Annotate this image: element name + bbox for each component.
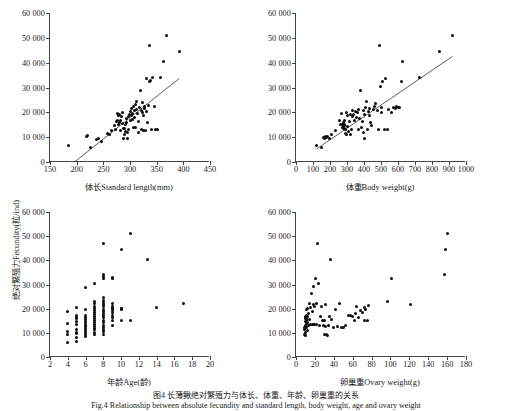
panel-ovary-weight-ytick bbox=[292, 236, 296, 237]
panel-ovary-weight-data-point bbox=[338, 302, 341, 305]
panel-ovary-weight-data-point bbox=[327, 324, 330, 327]
panel-ovary-weight-data-point bbox=[409, 303, 412, 306]
panel-ovary-weight-data-point bbox=[304, 334, 307, 337]
panel-ovary-weight-data-point bbox=[307, 312, 310, 315]
panel-ovary-weight-data-point bbox=[355, 305, 358, 308]
panel-ovary-weight-data-point bbox=[324, 303, 327, 306]
panel-ovary-weight-data-point bbox=[330, 318, 333, 321]
panel-ovary-weight-data-point bbox=[312, 285, 315, 288]
panel-ovary-weight-data-point bbox=[332, 326, 335, 329]
panel-ovary-weight-data-point bbox=[306, 329, 309, 332]
panel-ovary-weight-xtick-label: 60 bbox=[349, 360, 357, 369]
panel-ovary-weight-ytick bbox=[292, 212, 296, 213]
panel-ovary-weight-ytick-label: 10 000 bbox=[268, 328, 291, 337]
panel-ovary-weight-data-point bbox=[319, 315, 322, 318]
panel-ovary-weight-xtick-label: 180 bbox=[460, 360, 472, 369]
panel-ovary-weight-data-point bbox=[354, 312, 357, 315]
panel-ovary-weight-xtick-label: 160 bbox=[441, 360, 453, 369]
panel-ovary-weight-data-point bbox=[313, 305, 316, 308]
panel-ovary-weight-data-point bbox=[361, 311, 364, 314]
panel-ovary-weight-data-point bbox=[316, 242, 319, 245]
panel-ovary-weight-ytick bbox=[292, 333, 296, 334]
panel-ovary-weight-data-point bbox=[308, 302, 311, 305]
panel-ovary-weight-ytick-label: 60 000 bbox=[268, 208, 291, 217]
panel-ovary-weight-data-point bbox=[310, 292, 313, 295]
panel-ovary-weight-ytick bbox=[292, 309, 296, 310]
panel-ovary-weight-xtick-label: 40 bbox=[330, 360, 338, 369]
panel-ovary-weight-data-point bbox=[386, 300, 389, 303]
panel-ovary-weight-data-point bbox=[367, 304, 370, 307]
panel-ovary-weight-data-point bbox=[311, 310, 314, 313]
panel-ovary-weight-data-point bbox=[366, 319, 369, 322]
panel-ovary-weight-ytick-label: 40 000 bbox=[268, 256, 291, 265]
panel-ovary-weight-data-point bbox=[443, 273, 446, 276]
panel-ovary-weight-data-point bbox=[363, 319, 366, 322]
panel-ovary-weight-data-point bbox=[318, 324, 321, 327]
panel-ovary-weight-data-point bbox=[390, 277, 393, 280]
panel-ovary-weight-data-point bbox=[336, 325, 339, 328]
panel-ovary-weight-data-point bbox=[446, 232, 449, 235]
panel-ovary-weight-data-point bbox=[317, 282, 320, 285]
panel-ovary-weight-data-point bbox=[353, 319, 356, 322]
panel-ovary-weight-xtick-label: 140 bbox=[422, 360, 434, 369]
panel-ovary-weight-data-point bbox=[309, 306, 312, 309]
panel-ovary-weight-data-point bbox=[308, 318, 311, 321]
panel-ovary-weight-ytick bbox=[292, 285, 296, 286]
panel-ovary-weight-xtick-label: 0 bbox=[294, 360, 298, 369]
panel-ovary-weight-xtick-label: 120 bbox=[403, 360, 415, 369]
panel-ovary-weight-data-point bbox=[323, 319, 326, 322]
panel-ovary-weight-data-point bbox=[320, 305, 323, 308]
panel-ovary-weight-x-axis-title: 卵巢重Ovary weight(g) bbox=[340, 375, 420, 387]
panel-ovary-weight-data-point bbox=[357, 316, 360, 319]
panel-ovary-weight-data-point bbox=[344, 324, 347, 327]
panel-ovary-weight-data-point bbox=[326, 334, 329, 337]
figure-caption-en: Fig.4 Relationship between absolute fecu… bbox=[0, 401, 512, 411]
panel-ovary-weight-data-point bbox=[334, 308, 337, 311]
figure-caption-cn: 图4 长薄鳅绝对繁殖力与体长、体重、年龄、卵巢重的关系 bbox=[0, 391, 512, 401]
panel-ovary-weight-ytick-label: 0 bbox=[287, 353, 291, 362]
panel-ovary-weight-xtick-label: 80 bbox=[367, 360, 375, 369]
panel-ovary-weight-data-point bbox=[444, 248, 447, 251]
panel-ovary-weight-ytick bbox=[292, 260, 296, 261]
panel-ovary-weight-ytick-label: 30 000 bbox=[268, 280, 291, 289]
panel-ovary-weight-data-point bbox=[314, 277, 317, 280]
panel-ovary-weight-data-point bbox=[329, 258, 332, 261]
panel-ovary-weight-plot-area: 010 00020 00030 00040 00050 00060 000020… bbox=[295, 212, 465, 357]
panel-ovary-weight-xtick-label: 100 bbox=[384, 360, 396, 369]
panel-ovary-weight-data-point bbox=[315, 302, 318, 305]
panel-ovary-weight-ytick-label: 20 000 bbox=[268, 304, 291, 313]
panel-ovary-weight-ytick-label: 50 000 bbox=[268, 232, 291, 241]
panel-ovary-weight-data-point bbox=[364, 308, 367, 311]
panel-ovary-weight-data-point bbox=[351, 315, 354, 318]
panel-ovary-weight-xtick-label: 20 bbox=[311, 360, 319, 369]
